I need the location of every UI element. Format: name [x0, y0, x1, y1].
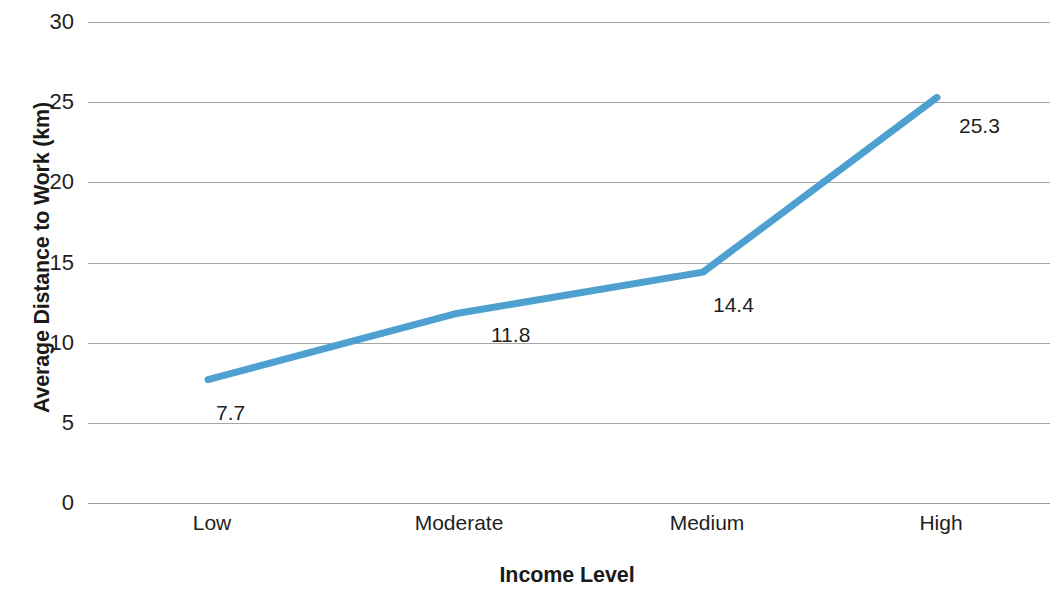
x-axis-title-wrap: Income Level: [0, 563, 1050, 588]
x-axis-tick-labels: LowModerateMediumHigh: [0, 512, 1050, 552]
y-axis-tick-labels: 051015202530: [0, 0, 74, 598]
data-label-high: 25.3: [959, 115, 1000, 136]
y-tick-label-30: 30: [8, 11, 74, 33]
line-chart: Average Distance to Work (km) 0510152025…: [0, 0, 1050, 598]
gridline-0: [88, 503, 1050, 504]
x-tick-label-moderate: Moderate: [415, 512, 504, 533]
x-tick-label-high: High: [919, 512, 962, 533]
data-label-moderate: 11.8: [491, 324, 530, 345]
series-polyline: [208, 97, 937, 379]
x-tick-label-low: Low: [193, 512, 232, 533]
y-tick-label-15: 15: [8, 252, 74, 274]
y-tick-label-5: 5: [8, 412, 74, 434]
y-tick-label-20: 20: [8, 171, 74, 193]
data-label-low: 7.7: [216, 402, 245, 423]
x-tick-label-medium: Medium: [670, 512, 745, 533]
y-tick-label-25: 25: [8, 91, 74, 113]
y-tick-label-10: 10: [8, 332, 74, 354]
series-line-average-distance: [88, 22, 1050, 503]
plot-area: 7.711.814.425.3: [88, 22, 1050, 503]
data-label-medium: 14.4: [713, 294, 754, 315]
y-tick-label-0: 0: [8, 492, 74, 514]
x-axis-title: Income Level: [499, 563, 634, 587]
